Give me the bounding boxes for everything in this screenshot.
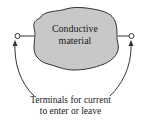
caption-line2: to enter or leave — [0, 106, 141, 117]
left-terminal-icon — [15, 34, 20, 39]
left-arrow-curve — [15, 42, 34, 96]
caption-line1: Terminals for current — [0, 95, 141, 106]
blob-label-line1: Conductive — [40, 23, 110, 34]
right-terminal-icon — [129, 34, 134, 39]
blob-label-line2: material — [40, 35, 110, 46]
left-arrowhead-icon — [13, 40, 18, 46]
right-arrowhead-icon — [129, 40, 134, 46]
